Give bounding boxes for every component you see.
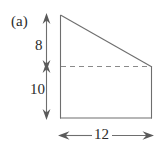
dimension-label-height-lower: 10 xyxy=(30,82,45,97)
panel-label: (a) xyxy=(11,14,28,29)
dimension-label-height-upper: 8 xyxy=(35,38,43,53)
geometry-figure: (a) 8 10 12 xyxy=(0,0,168,148)
vertical-dimension-group xyxy=(43,13,51,120)
dimension-label-width: 12 xyxy=(94,127,109,142)
shape-slant-edge xyxy=(61,15,153,67)
